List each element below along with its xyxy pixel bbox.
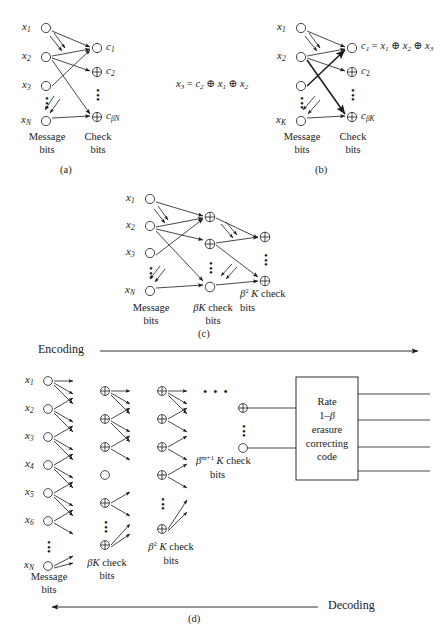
panel-d-col3-vdots: •••	[157, 497, 169, 511]
panel-a-node-label-x2: x2	[22, 50, 31, 63]
panel-d-col1-caption-line1: Message	[18, 572, 80, 583]
panel-c-col3-caption-line2: bits	[240, 303, 316, 314]
panel-b-node-label-xk: xK	[276, 114, 286, 127]
panel-a-graph	[41, 23, 101, 125]
erasure-box-line2: 1–β	[319, 410, 335, 421]
panel-b-node-label-x1: x1	[277, 21, 286, 34]
panel-b-message-caption-line1: Message	[273, 132, 331, 143]
panel-d-node-label-x5: x5	[25, 486, 34, 499]
panel-c-col1-vdots: •••	[145, 266, 157, 280]
decoding-label: Decoding	[328, 599, 375, 611]
panel-b-check-caption-line2: bits	[327, 145, 379, 156]
encoding-label: Encoding	[38, 343, 84, 355]
panel-d-node-label-x4: x4	[25, 458, 34, 471]
panel-d-hdots: • • •	[203, 386, 229, 398]
panel-a-message-caption-line1: Message	[18, 132, 76, 143]
panel-b-id: (b)	[315, 165, 327, 176]
panel-d-node-label-x6: x6	[25, 514, 34, 527]
panel-a-node-label-c1: c1	[106, 41, 115, 54]
panel-d-col2-caption-line1: βK check	[76, 558, 138, 569]
panel-c-col3-caption-line1: β2 K check	[240, 288, 316, 299]
panel-c-node-label-xn: xN	[125, 284, 135, 297]
panel-a-node-label-x1: x1	[22, 21, 31, 34]
panel-b-right-vdots: •••	[347, 88, 359, 102]
panel-d-node-label-x3: x3	[25, 430, 34, 443]
panel-d-id: (d)	[188, 614, 200, 625]
panel-d-col2-caption-line2: bits	[76, 571, 138, 582]
panel-b-equation-right: c1 = x1 ⊕ x2 ⊕ x3	[361, 41, 433, 53]
panel-d-col1-caption-line2: bits	[18, 585, 80, 596]
panel-d-col4-caption-line1: βm+1 K check	[196, 455, 282, 466]
panel-a-node-label-x3: x3	[22, 79, 31, 92]
panel-a-id: (a)	[60, 165, 72, 176]
panel-d-col3-caption-line2: bits	[134, 556, 208, 567]
panel-b-node-label-x2: x2	[277, 50, 286, 63]
panel-c-col2-caption-line1: βK check	[182, 303, 244, 314]
panel-b-left-vdots: •••	[296, 96, 308, 110]
panel-a-node-label-xn: xN	[21, 114, 31, 127]
panel-d-col2-vdots: •••	[100, 520, 112, 534]
panel-d-col1-vdots: •••	[43, 540, 55, 554]
panel-a-node-label-c2: c2	[106, 65, 115, 78]
panel-b-check-caption-line1: Check	[327, 132, 379, 143]
panel-a-check-caption-line2: bits	[72, 145, 124, 156]
panel-b-message-caption-line2: bits	[273, 145, 331, 156]
panel-c-id: (c)	[198, 329, 210, 340]
panel-b-equation-left: x3 = c2 ⊕ x1 ⊕ x2	[176, 79, 248, 91]
panel-d-node-label-xn: xN	[24, 559, 34, 572]
panel-d-col4-vdots: •••	[238, 424, 250, 438]
panel-c-col2-vdots: •••	[205, 261, 217, 275]
panel-a-right-vdots: •••	[92, 88, 104, 102]
panel-d-node-label-x2: x2	[25, 402, 34, 415]
panel-c-col1-caption-line2: bits	[120, 316, 182, 327]
panel-b-node-label-cbk: cβK	[361, 110, 375, 123]
panel-d-node-label-x1: x1	[25, 374, 34, 387]
erasure-box-line1: Rate	[317, 396, 336, 407]
erasure-box-line3: erasure	[312, 424, 342, 435]
panel-a-check-caption-line1: Check	[72, 132, 124, 143]
erasure-box-line4: correcting	[306, 438, 349, 449]
panel-a-node-label-cbn: cβN	[106, 110, 120, 123]
panel-b-node-label-c2: c2	[361, 65, 370, 78]
panel-c-node-label-x3: x3	[126, 246, 135, 259]
panel-a-left-vdots: •••	[41, 96, 53, 110]
panel-d-col3-caption-line1: β2 K check	[134, 541, 208, 552]
panel-c-node-label-x1: x1	[126, 192, 135, 205]
panel-c-col1-caption-line1: Message	[120, 303, 182, 314]
panel-c-graph	[145, 194, 269, 295]
figure-root: x1 x2 x3 xN ••• c1 c2 cβN ••• Message bi…	[0, 0, 445, 636]
panel-c-col2-caption-line2: bits	[182, 316, 244, 327]
panel-a-message-caption-line2: bits	[18, 145, 76, 156]
panel-c-col3-vdots: •••	[260, 253, 272, 267]
panel-d-col4-caption-line2: bits	[210, 470, 272, 481]
erasure-box-line5: code	[317, 451, 337, 462]
panel-b-graph	[296, 23, 356, 125]
erasure-code-box-label: Rate 1–β erasure correcting code	[296, 395, 358, 464]
panel-c-node-label-x2: x2	[126, 219, 135, 232]
